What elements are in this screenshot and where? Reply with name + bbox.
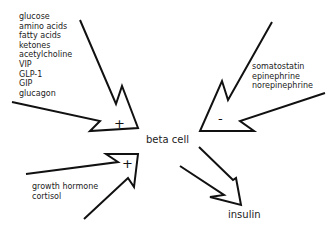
stimulator-list-2: growth hormone cortisol: [32, 182, 98, 201]
minus-sign: -: [218, 112, 223, 125]
stimulator-fatty-acids: fatty acids: [19, 31, 72, 41]
inhibitor-epinephrine: epinephrine: [252, 72, 313, 82]
output-arrows-to-insulin: [180, 147, 241, 205]
stimulator-acetylcholine: acetylcholine: [19, 50, 72, 60]
plus-sign-lower: +: [122, 157, 133, 170]
stimulator-list-1: glucose amino acids fatty acids ketones …: [19, 12, 72, 98]
stimulator-glucose: glucose: [19, 12, 72, 22]
stimulator-vip: VIP: [19, 60, 72, 70]
plus-sign-upper: +: [114, 117, 125, 130]
stimulator-growth-hormone: growth hormone: [32, 182, 98, 192]
stimulator-glucagon: glucagon: [19, 89, 72, 99]
stimulator-amino-acids: amino acids: [19, 22, 72, 32]
inhibitor-somatostatin: somatostatin: [252, 62, 313, 72]
inhibitor-norepinephrine: norepinephrine: [252, 81, 313, 91]
stimulator-cortisol: cortisol: [32, 192, 98, 202]
insulin-label: insulin: [228, 209, 261, 220]
stimulator-ketones: ketones: [19, 41, 72, 51]
stimulator-glp-1: GLP-1: [19, 70, 72, 80]
beta-cell-label: beta cell: [146, 134, 189, 145]
inhibitor-list: somatostatin epinephrine norepinephrine: [252, 62, 313, 91]
stimulator-gip: GIP: [19, 79, 72, 89]
